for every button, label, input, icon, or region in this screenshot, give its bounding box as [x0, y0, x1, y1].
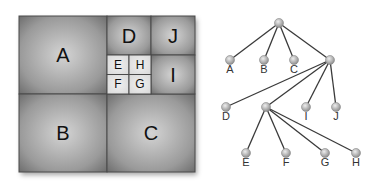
tree-node-label: J	[333, 110, 339, 122]
tree-node-label: A	[226, 63, 234, 75]
cell-label: I	[170, 64, 176, 86]
tree-node-label: D	[222, 110, 230, 122]
tree-edge	[266, 107, 356, 153]
tree-node-label: I	[304, 110, 307, 122]
tree-node-h: H	[352, 149, 361, 169]
cell-label: B	[56, 122, 69, 144]
tree-edge	[226, 60, 330, 107]
tree-node-d: D	[222, 103, 231, 123]
cell-d: D	[107, 16, 151, 55]
tree-node-q2	[326, 56, 335, 65]
cell-a: A	[19, 16, 107, 94]
cell-label: J	[168, 25, 178, 47]
cell-j: J	[151, 16, 195, 55]
tree-node-label: C	[290, 63, 298, 75]
cell-label: G	[135, 77, 144, 91]
cell-label: E	[114, 58, 122, 72]
tree-node-label: E	[242, 156, 249, 168]
tree-node-label: B	[260, 63, 267, 75]
quadtree-partition: ABCDJIEHFG ABCDIJEFGH	[0, 0, 374, 188]
cell-h: H	[129, 55, 151, 75]
cell-label: F	[114, 77, 121, 91]
cell-e: E	[107, 55, 129, 75]
tree-node-g: G	[321, 149, 330, 169]
tree-node-label: H	[352, 156, 360, 168]
tree-edge	[246, 107, 266, 153]
cell-f: F	[107, 75, 129, 95]
tree-node-e: E	[242, 149, 251, 169]
tree-node-f: F	[282, 149, 291, 169]
tree-edge	[266, 107, 286, 153]
tree-edge	[306, 60, 330, 107]
tree-node-a: A	[226, 56, 235, 76]
tree-edge	[266, 107, 325, 153]
tree-node-j: J	[332, 103, 341, 123]
tree-node-label: F	[283, 156, 290, 168]
cell-label: D	[122, 25, 136, 47]
tree-node-b: B	[260, 56, 269, 76]
tree-node-label: G	[321, 156, 330, 168]
cell-i: I	[151, 55, 195, 94]
tree-edge	[266, 60, 330, 107]
cell-b: B	[19, 94, 107, 172]
cell-label: C	[144, 122, 158, 144]
cell-label: H	[136, 58, 145, 72]
cell-g: G	[129, 75, 151, 95]
tree-node-i: I	[302, 103, 311, 123]
tree-edge	[330, 60, 336, 107]
cell-c: C	[107, 94, 195, 172]
cell-label: A	[56, 44, 70, 66]
tree-node-root	[275, 19, 284, 28]
tree-node-q3	[262, 103, 271, 112]
tree-node-c: C	[290, 56, 299, 76]
